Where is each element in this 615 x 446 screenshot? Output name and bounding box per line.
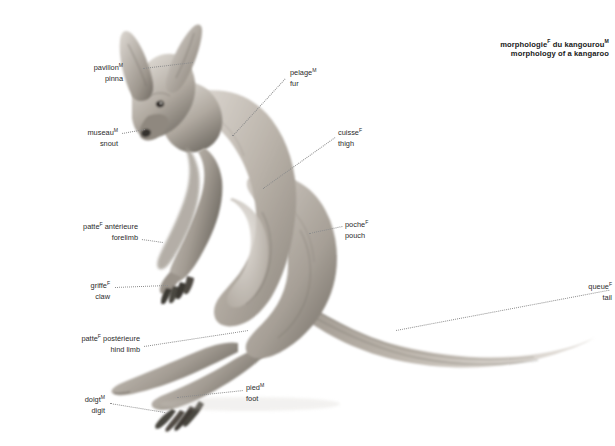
label-hind-limb: patteF postérieure hind limb bbox=[0, 333, 140, 356]
label-digit-en: digit bbox=[0, 406, 105, 417]
label-foot-en: foot bbox=[246, 394, 264, 405]
label-pouch-fr: pocheF bbox=[345, 219, 368, 231]
label-tail-en: tail bbox=[530, 293, 612, 304]
label-pinna-en: pinna bbox=[0, 74, 123, 85]
label-foot: piedM foot bbox=[246, 382, 264, 405]
label-snout-fr: museauM bbox=[0, 127, 118, 139]
label-pouch: pocheF pouch bbox=[345, 219, 368, 242]
label-thigh-en: thigh bbox=[338, 139, 362, 150]
label-fur-en: fur bbox=[290, 79, 316, 90]
diagram-title: morphologieF du kangourouM morphology of… bbox=[500, 38, 609, 59]
label-pinna: pavillonM pinna bbox=[0, 62, 123, 85]
label-claw-en: claw bbox=[0, 292, 110, 303]
label-forelimb: patteF antérieure forelimb bbox=[0, 221, 138, 244]
label-thigh: cuisseF thigh bbox=[338, 127, 362, 150]
label-claw: griffeF claw bbox=[0, 280, 110, 303]
title-french-rest-gender: M bbox=[605, 38, 609, 44]
title-french: morphologieF du kangourouM bbox=[500, 38, 609, 49]
label-hind-limb-fr: patteF postérieure bbox=[0, 333, 140, 345]
label-snout-en: snout bbox=[0, 139, 118, 150]
label-foot-fr: piedM bbox=[246, 382, 264, 394]
label-tail-fr: queueF bbox=[530, 281, 612, 293]
label-snout: museauM snout bbox=[0, 127, 118, 150]
label-forelimb-fr: patteF antérieure bbox=[0, 221, 138, 233]
illustration-page: morphologieF du kangourouM morphology of… bbox=[0, 0, 615, 446]
label-hind-limb-en: hind limb bbox=[0, 345, 140, 356]
label-digit-fr: doigtM bbox=[0, 394, 105, 406]
label-pinna-fr: pavillonM bbox=[0, 62, 123, 74]
title-french-rest: du kangourou bbox=[551, 40, 605, 49]
label-pouch-en: pouch bbox=[345, 231, 368, 242]
label-claw-fr: griffeF bbox=[0, 280, 110, 292]
label-fur: pelageM fur bbox=[290, 67, 316, 90]
label-digit: doigtM digit bbox=[0, 394, 105, 417]
label-thigh-fr: cuisseF bbox=[338, 127, 362, 139]
label-fur-fr: pelageM bbox=[290, 67, 316, 79]
label-tail: queueF tail bbox=[530, 281, 612, 304]
title-english: morphology of a kangaroo bbox=[500, 49, 609, 58]
title-french-term: morphologie bbox=[500, 40, 547, 49]
label-forelimb-en: forelimb bbox=[0, 233, 138, 244]
